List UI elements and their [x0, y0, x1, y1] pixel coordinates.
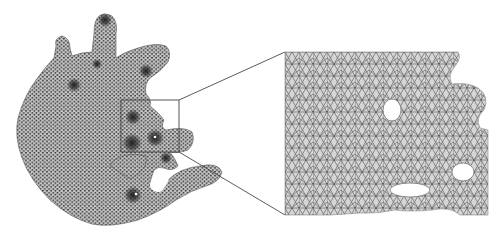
refinement-spot — [98, 13, 112, 27]
refinement-spot — [139, 64, 153, 78]
full-mesh-domain — [17, 14, 222, 225]
inset-hole — [452, 163, 474, 181]
inset-hole — [383, 99, 401, 121]
refinement-spot — [67, 78, 81, 92]
refinement-spot — [124, 186, 142, 204]
connector-line-top — [179, 52, 285, 100]
hole-marker — [154, 136, 157, 139]
refinement-spot — [160, 152, 172, 164]
inset-mesh-fill — [285, 52, 488, 215]
refinement-spot — [125, 109, 141, 125]
refinement-spot — [92, 59, 102, 69]
hole-marker — [135, 193, 138, 196]
mesh-outline — [17, 14, 222, 225]
zoomed-inset — [285, 52, 488, 215]
mesh-figure — [0, 0, 500, 243]
inset-hole — [390, 183, 430, 197]
mesh-diagram-svg — [0, 0, 500, 243]
refinement-spot — [122, 133, 142, 153]
